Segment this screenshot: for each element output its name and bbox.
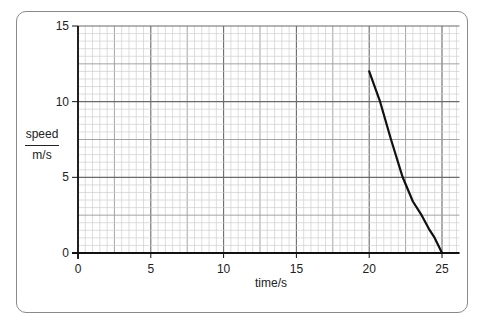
axes (72, 26, 459, 259)
grid (78, 26, 459, 253)
svg-text:25: 25 (435, 262, 449, 276)
y-axis-label-unit: m/s (20, 148, 64, 162)
svg-text:15: 15 (56, 19, 70, 33)
svg-text:10: 10 (56, 95, 70, 109)
svg-text:20: 20 (363, 262, 377, 276)
svg-text:10: 10 (217, 262, 231, 276)
svg-text:5: 5 (62, 170, 69, 184)
y-axis-label-divider (25, 145, 59, 146)
svg-text:0: 0 (75, 262, 82, 276)
svg-text:5: 5 (147, 262, 154, 276)
svg-text:0: 0 (62, 246, 69, 260)
svg-text:15: 15 (290, 262, 304, 276)
x-axis-label: time/s (255, 276, 287, 290)
y-axis-label-quantity: speed (20, 127, 64, 141)
speed-time-graph: 0510152025051015 (0, 0, 481, 330)
